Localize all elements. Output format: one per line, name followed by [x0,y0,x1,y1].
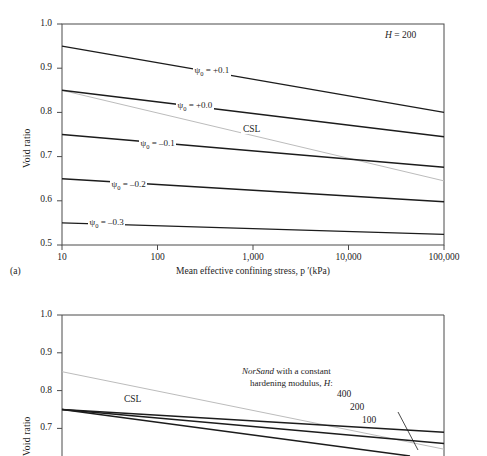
panel-a-ytick-5: 0.6 [30,194,52,204]
panel-a-xtick-4: 10,000 [335,252,361,262]
norsand-annotation-text-1: with a constant [274,366,331,376]
panel-b-ytick-3: 0.8 [30,385,52,395]
curve-psi-m01 [62,135,444,168]
norsand-annotation-line-1: NorSand with a constant [242,366,333,378]
panel-a-x-axis-title-text: Mean effective confining stress, p ′(kPa… [176,266,330,276]
panel-b-h-label-100: 100 [362,415,376,425]
psi-value-2: = +0.0 [186,100,212,110]
panel-a-ytick-1: 1.0 [30,18,52,28]
panel-a-ytick-3: 0.8 [30,106,52,116]
label-psi-m01: ψ0 = –0.1 [139,138,176,152]
curve-h-100 [62,410,410,456]
figure-panel-a: Void ratio 1.0 0.9 0.8 0.7 0.6 0.5 10 10… [0,0,487,285]
panel-a-ytick-4: 0.7 [30,150,52,160]
norsand-annotation-text-2: hardening modulus, [250,378,324,388]
hardening-symbol: H [385,30,392,40]
panel-a-y-axis-title: Void ratio [22,128,32,168]
curve-psi-p01 [62,46,444,112]
label-psi-m03: ψ0 = –0.3 [88,217,125,231]
figure-panel-b: Void ratio 1.0 0.9 0.8 0.7 CSL NorSand w… [0,290,487,456]
norsand-annotation-line-2: hardening modulus, H: [242,378,333,390]
label-psi-m02: ψ0 = –0.2 [110,179,147,193]
panel-a-hardening-note: H = 200 [385,30,416,40]
psi-value-3: = –0.1 [149,138,174,148]
csl-line-a [62,90,444,181]
panel-a-xtick-2: 100 [150,252,164,262]
curve-h-200 [62,410,444,444]
panel-a-x-axis-title: Mean effective confining stress, p ′(kPa… [176,266,330,276]
panel-b-ytick-2: 0.9 [30,347,52,357]
panel-a-xtick-3: 1,000 [242,252,263,262]
panel-a-csl-label: CSL [241,124,262,134]
norsand-annotation-colon: : [330,378,333,388]
panel-a-plot [0,0,487,285]
panel-a-ytick-2: 0.9 [30,62,52,72]
norsand-model-name: NorSand [242,366,274,376]
label-psi-p01: ψ0 = +0.1 [193,65,231,79]
panel-b-ytick-4: 0.7 [30,422,52,432]
panel-b-h-label-200: 200 [350,402,364,412]
panel-a-ytick-6: 0.5 [30,238,52,248]
panel-b-csl-label: CSL [122,394,143,404]
panel-a-letter: (a) [10,266,21,276]
hardening-value: = 200 [392,30,416,40]
curve-h-400 [62,410,444,433]
panel-b-norsand-annotation: NorSand with a constant hardening modulu… [242,366,333,389]
panel-a-xtick-5: 100,000 [429,252,460,262]
psi-value-5: = –0.3 [98,217,123,227]
panel-b-h-label-400: 400 [337,389,351,399]
panel-a-xtick-1: 10 [57,252,67,262]
psi-value-1: = +0.1 [203,65,229,75]
panel-b-ytick-1: 1.0 [30,309,52,319]
label-psi-p00: ψ0 = +0.0 [176,100,214,114]
psi-value-4: = –0.2 [120,179,145,189]
